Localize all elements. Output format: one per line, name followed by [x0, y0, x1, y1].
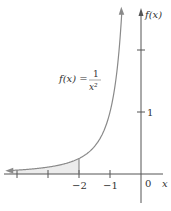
svg-text:x²: x² — [89, 82, 98, 92]
svg-text:−1: −1 — [103, 180, 118, 191]
y-axis-arrow-icon — [139, 8, 144, 16]
svg-text:1: 1 — [147, 107, 153, 118]
y-ticks: 1 — [137, 50, 153, 118]
curve-top-arrow-icon — [119, 7, 125, 15]
y-axis-label: f(x) — [144, 9, 162, 20]
x-axis-label: x — [162, 178, 168, 189]
function-label: f(x) = 1 x² — [58, 69, 101, 92]
svg-text:1: 1 — [93, 69, 99, 79]
svg-text:0: 0 — [145, 178, 151, 189]
curve — [9, 13, 122, 171]
function-graph: −2−10 1 f(x) x f(x) = 1 x² — [0, 0, 171, 211]
svg-text:−2: −2 — [72, 180, 87, 191]
svg-text:f(x) =: f(x) = — [58, 73, 88, 84]
shaded-area — [9, 159, 79, 175]
